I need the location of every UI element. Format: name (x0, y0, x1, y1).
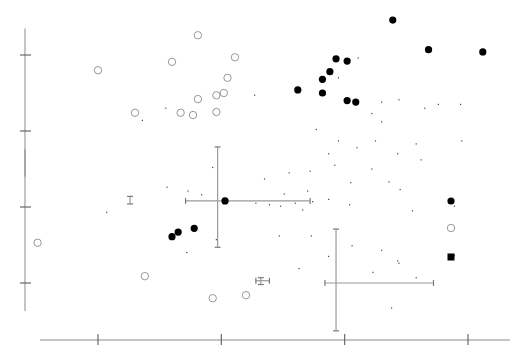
filled-circle-point (191, 225, 198, 232)
open-circle-point (213, 92, 220, 99)
small-dot-point (398, 99, 399, 100)
small-dot-point (371, 168, 372, 169)
open-circle-point (168, 58, 175, 65)
small-dot-point (298, 268, 299, 269)
small-dot-point (356, 147, 357, 148)
small-dot-point (351, 245, 352, 246)
small-dot-point (358, 57, 359, 58)
open-circle-point (94, 67, 101, 74)
small-dot-point (186, 252, 187, 253)
legend-entry (447, 224, 454, 231)
small-dot-point (264, 178, 265, 179)
small-dot-point (316, 129, 317, 130)
error-bar (256, 278, 270, 285)
legend-entry (447, 197, 454, 204)
small-dot-point (201, 194, 202, 195)
small-dot-point (375, 140, 376, 141)
small-dot-point (307, 190, 308, 191)
filled-circle-point (221, 197, 228, 204)
filled-circle-point (175, 228, 182, 235)
small-dot-point (350, 182, 351, 183)
legend-entry (448, 254, 455, 261)
small-dot-point (328, 153, 329, 154)
small-dot-point (106, 212, 107, 213)
small-dot-point (372, 272, 373, 273)
small-dot-point (397, 153, 398, 154)
open-circle-point (224, 74, 231, 81)
small-dot-point (334, 165, 335, 166)
small-dot-point (416, 143, 417, 144)
small-dot-point (328, 199, 329, 200)
small-dot-point (400, 189, 401, 190)
legend (447, 197, 454, 260)
open-circle-point (189, 111, 196, 118)
small-dot-point (391, 307, 392, 308)
data-points (34, 16, 487, 308)
small-dot-point (166, 187, 167, 188)
small-dot-point (295, 203, 296, 204)
small-dot-point (398, 263, 399, 264)
small-dot-point (371, 113, 372, 114)
small-dot-point (388, 181, 389, 182)
filled-circle-point (425, 46, 432, 53)
open-circle-point (194, 95, 201, 102)
filled-circle-point (344, 97, 351, 104)
filled-circle-point (294, 86, 301, 93)
open-circle-point (141, 272, 148, 279)
error-bar (325, 229, 434, 331)
small-dot-point (454, 206, 455, 207)
open-circle-point (177, 109, 184, 116)
filled-circle-point (326, 68, 333, 75)
axes (20, 28, 510, 345)
legend-open-circle-icon (447, 224, 454, 231)
small-dot-point (421, 159, 422, 160)
series-filled-circles (168, 16, 486, 240)
small-dot-point (397, 260, 398, 261)
open-circle-point (231, 54, 238, 61)
small-dot-point (279, 235, 280, 236)
small-dot-point (302, 209, 303, 210)
open-circle-point (209, 295, 216, 302)
small-dot-point (338, 140, 339, 141)
small-dot-point (412, 210, 413, 211)
small-dot-point (216, 239, 217, 240)
legend-filled-circle-icon (447, 197, 454, 204)
small-dot-point (165, 108, 166, 109)
open-circle-point (34, 239, 41, 246)
filled-circle-point (344, 57, 351, 64)
small-dot-point (255, 203, 256, 204)
small-dot-point (381, 102, 382, 103)
small-dot-point (310, 171, 311, 172)
small-dot-point (312, 201, 313, 202)
small-dot-point (349, 204, 350, 205)
series-small-dots (106, 57, 462, 308)
small-dot-point (212, 167, 213, 168)
small-dot-point (338, 77, 339, 78)
filled-circle-point (319, 89, 326, 96)
legend-filled-square-icon (448, 254, 455, 261)
filled-circle-point (389, 16, 396, 23)
small-dot-point (284, 193, 285, 194)
small-dot-point (142, 120, 143, 121)
small-dot-point (460, 104, 461, 105)
error-bar (186, 147, 311, 247)
open-circle-point (220, 89, 227, 96)
small-dot-point (187, 190, 188, 191)
scatter-chart (0, 0, 525, 360)
filled-circle-point (168, 233, 175, 240)
small-dot-point (416, 277, 417, 278)
small-dot-point (328, 256, 329, 257)
small-dot-point (254, 95, 255, 96)
error-bar (127, 196, 133, 204)
open-circle-point (194, 32, 201, 39)
small-dot-point (424, 108, 425, 109)
small-dot-point (381, 121, 382, 122)
filled-circle-point (332, 55, 339, 62)
small-dot-point (289, 172, 290, 173)
open-circle-point (242, 291, 249, 298)
open-circle-point (213, 108, 220, 115)
small-dot-point (280, 206, 281, 207)
filled-circle-point (319, 76, 326, 83)
small-dot-point (311, 235, 312, 236)
filled-circle-point (352, 99, 359, 106)
